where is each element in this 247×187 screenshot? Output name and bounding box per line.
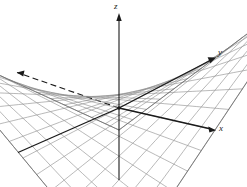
origin-marker [117, 106, 121, 110]
axis-y-positive [119, 57, 216, 108]
surface-plot-canvas [0, 0, 247, 187]
axis-label-z: z [114, 2, 118, 11]
surface-plot-figure: z y x [0, 0, 247, 187]
axis-x-positive [119, 108, 216, 133]
surface-wireframe-mesh [0, 0, 247, 187]
axis-label-y: y [218, 48, 222, 57]
axis-label-x: x [219, 124, 223, 133]
